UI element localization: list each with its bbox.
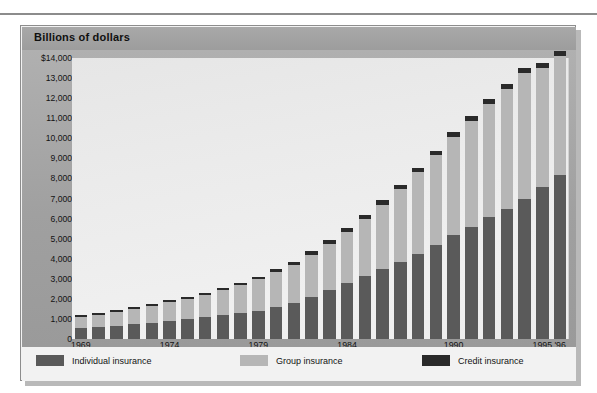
- y-axis-tick-label: 9,000: [22, 153, 72, 163]
- bar-segment-individual: [394, 262, 406, 339]
- bar-group[interactable]: [199, 293, 211, 339]
- bar-segment-group: [465, 121, 477, 226]
- bar-segment-individual: [110, 326, 122, 339]
- bar-segment-group: [430, 155, 442, 244]
- legend-label: Credit insurance: [458, 356, 524, 366]
- bar-group[interactable]: [92, 313, 104, 339]
- bar-segment-group: [554, 56, 566, 175]
- bar-segment-individual: [305, 297, 317, 339]
- bar-segment-individual: [483, 217, 495, 339]
- y-axis-tick-label: 10,000: [22, 133, 72, 143]
- legend-item-credit[interactable]: Credit insurance: [422, 355, 524, 366]
- bar-segment-group: [75, 317, 87, 328]
- bar-segment-individual: [412, 254, 424, 339]
- chart-title: Billions of dollars: [34, 31, 130, 43]
- bar-segment-group: [146, 306, 158, 323]
- bar-segment-group: [359, 219, 371, 276]
- bar-segment-individual: [92, 327, 104, 339]
- bar-segment-group: [447, 137, 459, 234]
- bar-group[interactable]: [270, 269, 282, 339]
- y-axis-tick-label: 2,000: [22, 294, 72, 304]
- bar-segment-individual: [181, 319, 193, 339]
- legend-label: Group insurance: [276, 356, 343, 366]
- bar-segment-group: [217, 290, 229, 315]
- bar-group[interactable]: [252, 277, 264, 339]
- bar-segment-individual: [501, 209, 513, 339]
- bar-segment-group: [199, 295, 211, 317]
- chart-figure-panel: Billions of dollars $14,00013,00012,0001…: [20, 25, 576, 381]
- bar-segment-individual: [217, 315, 229, 339]
- chart-header-band: Billions of dollars: [22, 27, 576, 50]
- bar-group[interactable]: [128, 307, 140, 339]
- bar-group[interactable]: [146, 304, 158, 339]
- bar-group[interactable]: [536, 63, 548, 339]
- bar-group[interactable]: [217, 288, 229, 339]
- bar-segment-individual: [359, 276, 371, 339]
- bar-segment-group: [394, 189, 406, 261]
- y-axis-tick-label: 6,000: [22, 214, 72, 224]
- bar-segment-individual: [234, 313, 246, 339]
- bar-group[interactable]: [163, 300, 175, 339]
- bar-group[interactable]: [394, 185, 406, 339]
- y-axis-tick-label: 11,000: [22, 113, 72, 123]
- bar-segment-group: [128, 309, 140, 324]
- legend-swatch-group-icon: [240, 355, 268, 366]
- plot-area: [72, 58, 569, 339]
- bar-segment-individual: [536, 187, 548, 339]
- bar-group[interactable]: [412, 168, 424, 339]
- legend-item-group[interactable]: Group insurance: [240, 355, 343, 366]
- bar-group[interactable]: [501, 84, 513, 339]
- bar-segment-individual: [199, 317, 211, 339]
- legend-item-individual[interactable]: Individual insurance: [36, 355, 152, 366]
- bar-segment-individual: [146, 323, 158, 339]
- top-horizontal-rule: [0, 13, 597, 15]
- bar-segment-group: [412, 172, 424, 253]
- bar-group[interactable]: [518, 68, 530, 339]
- bar-segment-individual: [270, 307, 282, 339]
- bar-group[interactable]: [447, 132, 459, 339]
- legend-label: Individual insurance: [72, 356, 152, 366]
- bar-segment-individual: [554, 175, 566, 339]
- bar-group[interactable]: [323, 240, 335, 339]
- bar-segment-group: [323, 244, 335, 290]
- bar-segment-group: [110, 312, 122, 326]
- bar-segment-group: [234, 285, 246, 313]
- bar-segment-individual: [465, 227, 477, 339]
- bar-group[interactable]: [75, 315, 87, 339]
- bar-group[interactable]: [483, 99, 495, 339]
- chart-legend: Individual insuranceGroup insuranceCredi…: [22, 347, 576, 381]
- bar-group[interactable]: [110, 310, 122, 339]
- legend-swatch-credit-icon: [422, 355, 450, 366]
- y-axis-tick-label: 0: [22, 334, 72, 344]
- bar-group[interactable]: [359, 215, 371, 339]
- y-axis-tick-label: 8,000: [22, 173, 72, 183]
- bar-segment-individual: [518, 199, 530, 340]
- bar-segment-individual: [430, 245, 442, 339]
- y-axis-tick-label: 4,000: [22, 254, 72, 264]
- bar-segment-individual: [163, 321, 175, 339]
- bar-group[interactable]: [465, 116, 477, 339]
- bar-group[interactable]: [376, 200, 388, 339]
- bar-group[interactable]: [430, 151, 442, 339]
- bar-group[interactable]: [554, 51, 566, 339]
- bar-segment-individual: [75, 328, 87, 339]
- bar-group[interactable]: [234, 283, 246, 339]
- bar-segment-group: [181, 299, 193, 319]
- bar-segment-individual: [288, 303, 300, 339]
- axis-field: $14,00013,00012,00011,00010,0009,0008,00…: [22, 50, 576, 347]
- bar-group[interactable]: [305, 251, 317, 339]
- bars-layer: [72, 58, 568, 339]
- y-axis-tick-label: 5,000: [22, 234, 72, 244]
- bar-segment-group: [270, 272, 282, 307]
- bar-segment-group: [341, 232, 353, 283]
- bar-segment-group: [92, 315, 104, 327]
- y-axis-tick-label: 1,000: [22, 314, 72, 324]
- y-axis-tick-label: 13,000: [22, 73, 72, 83]
- bar-group[interactable]: [181, 297, 193, 339]
- bar-segment-individual: [252, 311, 264, 340]
- bar-group[interactable]: [288, 262, 300, 339]
- bar-segment-group: [288, 265, 300, 303]
- bar-segment-individual: [323, 290, 335, 339]
- bar-group[interactable]: [341, 228, 353, 339]
- y-axis: $14,00013,00012,00011,00010,0009,0008,00…: [22, 50, 72, 347]
